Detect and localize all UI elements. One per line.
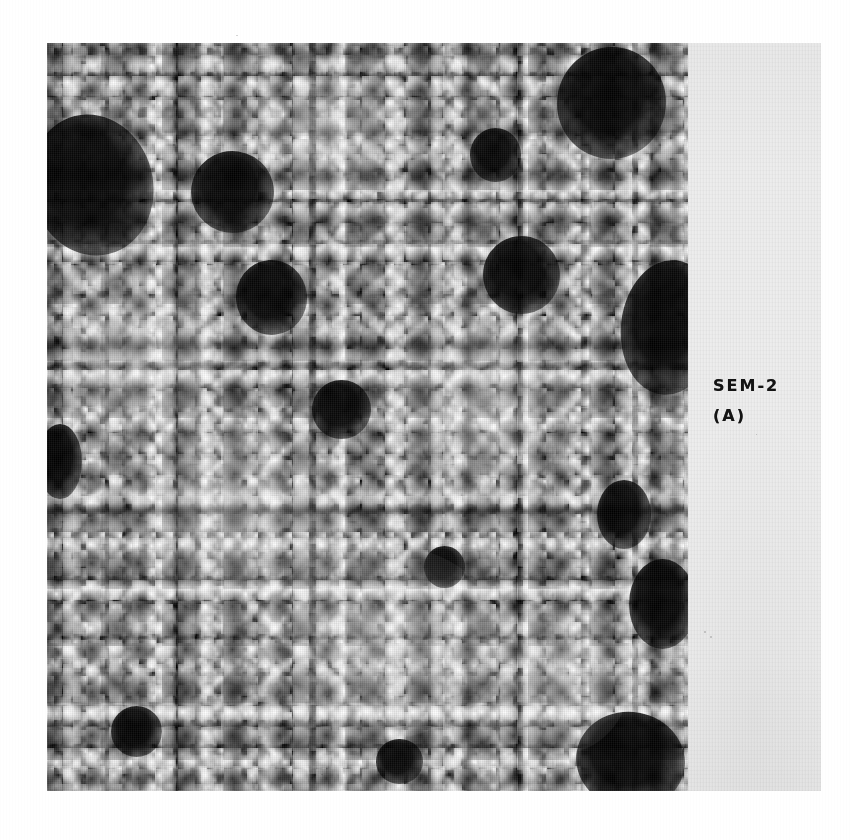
sem-micrograph-image bbox=[47, 43, 688, 791]
caption-panel: SEM-2 (A) bbox=[688, 43, 821, 791]
caption-line-1: SEM-2 bbox=[713, 371, 779, 401]
scan-speck bbox=[236, 35, 238, 36]
caption-line-2: (A) bbox=[713, 401, 779, 431]
particle-field-layer-3 bbox=[47, 43, 688, 791]
figure-page: SEM-2 (A) bbox=[0, 0, 851, 840]
figure-caption: SEM-2 (A) bbox=[713, 371, 779, 431]
